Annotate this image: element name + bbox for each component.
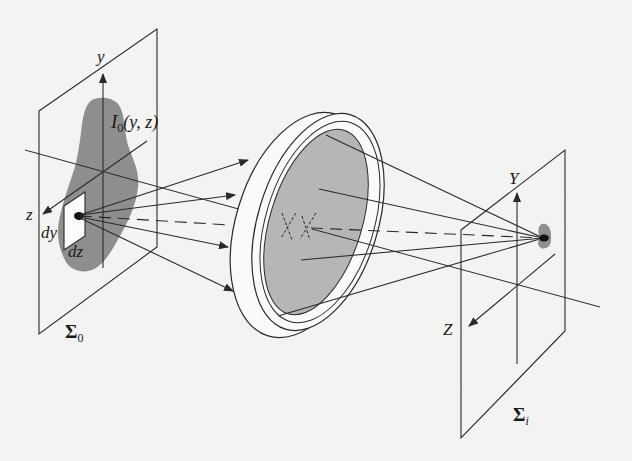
object-y-axis-label: y	[97, 48, 105, 65]
object-z-axis-label: z	[26, 206, 33, 223]
image-plane	[461, 150, 565, 438]
image-plane-subscript: i	[525, 414, 528, 428]
dy-label: dy	[41, 224, 57, 241]
image-point-icon	[539, 235, 549, 242]
dz-label: dz	[68, 243, 83, 260]
irradiance-args: (y, z)	[123, 112, 158, 132]
optics-diagram: y z I0(y, z) dy dz Σ0 Y Z Σi	[0, 0, 632, 461]
image-plane-label: Σi	[513, 405, 529, 427]
image-z-axis-label: Z	[443, 321, 452, 338]
diagram-canvas	[0, 0, 632, 461]
irradiance-label: I0(y, z)	[111, 112, 158, 134]
image-plane-sigma: Σ	[513, 404, 525, 425]
image-plane-frame	[461, 150, 565, 438]
object-plane-subscript: 0	[77, 331, 83, 345]
image-z-axis-icon	[469, 254, 555, 326]
object-plane-label: Σ0	[65, 322, 83, 344]
image-y-axis-label: Y	[509, 170, 518, 187]
object-plane-sigma: Σ	[65, 321, 77, 342]
lens	[205, 95, 408, 355]
